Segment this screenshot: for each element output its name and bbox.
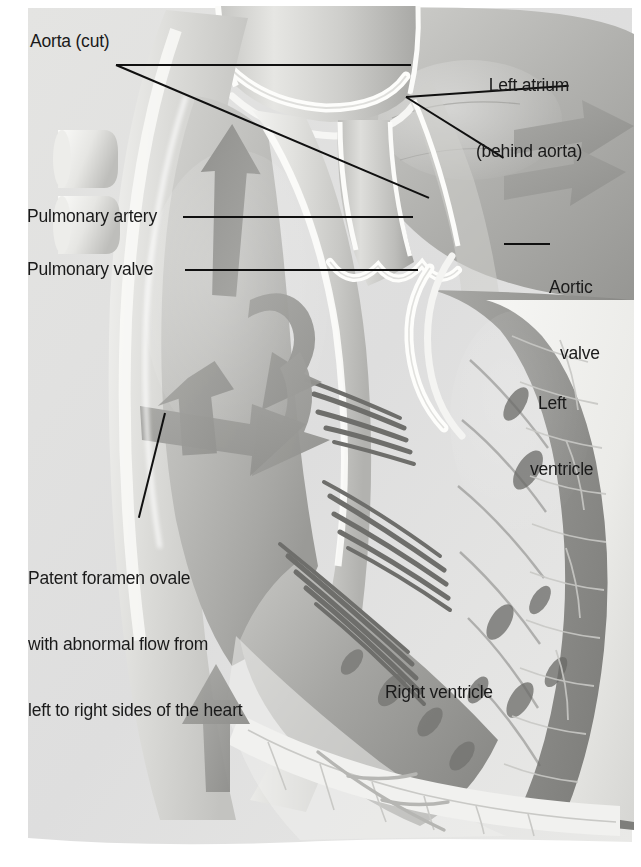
label-aortic-valve-line1: Aortic (549, 276, 600, 298)
label-left-ventricle: Left ventricle (538, 348, 593, 524)
label-right-ventricle: Right ventricle (385, 681, 493, 703)
label-pulmonary-valve: Pulmonary valve (27, 258, 153, 280)
label-pfo-line1: Patent foramen ovale (28, 567, 242, 589)
label-left-atrium: Left atrium (behind aorta) (434, 30, 624, 206)
label-pfo-line2: with abnormal flow from (28, 633, 242, 655)
label-left-ventricle-line2: ventricle (530, 458, 593, 480)
label-pfo-line3: left to right sides of the heart (28, 699, 242, 721)
leader-pulmonary-artery (183, 216, 413, 218)
label-pulmonary-artery: Pulmonary artery (27, 205, 157, 227)
figure-canvas: Aorta (cut) Pulmonary artery Pulmonary v… (0, 0, 641, 867)
label-patent-foramen-ovale: Patent foramen ovale with abnormal flow … (28, 523, 242, 765)
label-left-atrium-line2: (behind aorta) (434, 140, 624, 162)
label-left-ventricle-line1: Left (538, 392, 593, 414)
leader-aorta-cut-upper (116, 64, 411, 66)
label-aorta-cut: Aorta (cut) (30, 30, 110, 52)
leader-pulmonary-valve (185, 269, 418, 271)
leader-aortic-valve (504, 243, 550, 245)
label-left-atrium-line1: Left atrium (434, 74, 624, 96)
